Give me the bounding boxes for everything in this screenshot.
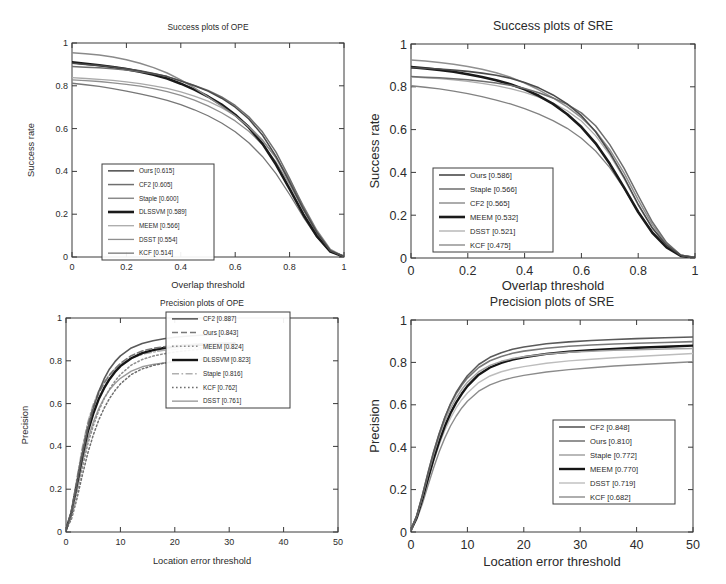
legend-label-ours: Ours [0.843] bbox=[203, 329, 238, 337]
legend-label-meem: MEEM [0.770] bbox=[590, 465, 638, 474]
legend-label-kcf: KCF [0.475] bbox=[470, 241, 511, 250]
y-tick-label: 0.8 bbox=[49, 356, 62, 366]
y-tick-label: 0.4 bbox=[390, 441, 407, 455]
y-tick-label: 1 bbox=[400, 38, 407, 52]
y-tick-label: 0.2 bbox=[49, 484, 62, 494]
y-tick-label: 0.8 bbox=[390, 356, 407, 370]
y-tick-label: 0.8 bbox=[55, 81, 68, 91]
legend-label-meem: MEEM [0.532] bbox=[470, 213, 518, 222]
x-tick-label: 30 bbox=[224, 537, 234, 547]
chart-legend: Ours [0.586]Staple [0.566]CF2 [0.565]MEE… bbox=[433, 168, 553, 252]
y-axis-label: Success rate bbox=[367, 113, 382, 188]
y-axis-label: Success rate bbox=[26, 123, 36, 177]
legend-label-staple: Staple [0.600] bbox=[139, 195, 179, 203]
chart-panel-precision-sre: Precision plots of SRE0102030405000.20.4… bbox=[363, 292, 726, 584]
y-tick-label: 0.6 bbox=[55, 124, 68, 134]
legend-label-ours: Ours [0.810] bbox=[590, 437, 632, 446]
legend-label-kcf: KCF [0.682] bbox=[590, 493, 631, 502]
legend-label-cf2: CF2 [0.848] bbox=[590, 423, 630, 432]
y-tick-label: 0.2 bbox=[390, 209, 407, 223]
chart-title: Precision plots of OPE bbox=[160, 298, 244, 308]
x-axis-label: Location error threshold bbox=[153, 556, 251, 566]
y-tick-label: 0 bbox=[400, 526, 407, 540]
legend-label-dsst: DSST [0.761] bbox=[203, 397, 241, 405]
legend-label-dsst: DSST [0.719] bbox=[590, 479, 635, 488]
chart-panel-success-sre: Success plots of SRE00.20.40.60.8100.20.… bbox=[363, 0, 726, 292]
legend-label-dlssvm: DLSSVM [0.589] bbox=[139, 208, 187, 216]
y-tick-label: 1 bbox=[63, 38, 68, 48]
x-tick-label: 10 bbox=[115, 537, 125, 547]
chart-title: Success plots of OPE bbox=[168, 22, 249, 32]
x-tick-label: 40 bbox=[279, 537, 289, 547]
y-tick-label: 0.6 bbox=[49, 399, 62, 409]
y-tick-label: 0.4 bbox=[49, 441, 62, 451]
legend-label-meem: MEEM [0.566] bbox=[139, 222, 180, 230]
y-tick-label: 0.2 bbox=[390, 483, 407, 497]
chart-panel-precision-ope: Precision plots of OPE0102030405000.20.4… bbox=[0, 292, 363, 584]
y-tick-label: 0.6 bbox=[390, 123, 407, 137]
legend-label-dsst: DSST [0.554] bbox=[139, 236, 177, 244]
legend-label-ours: Ours [0.615] bbox=[139, 167, 174, 175]
y-tick-label: 0.2 bbox=[55, 209, 68, 219]
legend-label-staple: Staple [0.772] bbox=[590, 451, 637, 460]
x-tick-label: 0.4 bbox=[175, 262, 188, 272]
legend-label-staple: Staple [0.566] bbox=[470, 185, 517, 194]
x-tick-label: 0.6 bbox=[229, 262, 242, 272]
x-axis-label: Location error threshold bbox=[483, 554, 620, 569]
x-axis-label: Overlap threshold bbox=[171, 280, 244, 290]
x-tick-label: 0 bbox=[408, 264, 415, 278]
legend-label-kcf: KCF [0.514] bbox=[139, 249, 173, 257]
y-axis-label: Precision bbox=[20, 406, 30, 444]
x-tick-label: 0.8 bbox=[630, 264, 647, 278]
legend-label-cf2: CF2 [0.605] bbox=[139, 181, 173, 189]
legend-label-meem: MEEM [0.824] bbox=[203, 343, 244, 351]
x-tick-label: 0.6 bbox=[573, 264, 590, 278]
y-axis-label: Precision bbox=[367, 399, 382, 452]
chart-panel-success-ope: Success plots of OPE00.20.40.60.8100.20.… bbox=[0, 0, 363, 292]
x-tick-label: 1 bbox=[341, 262, 346, 272]
figure-panel-grid: Success plots of OPE00.20.40.60.8100.20.… bbox=[0, 0, 726, 584]
x-tick-label: 0.2 bbox=[459, 264, 476, 278]
y-tick-label: 1 bbox=[400, 314, 407, 328]
legend-label-dlssvm: DLSSVM [0.823] bbox=[203, 356, 251, 364]
x-tick-label: 20 bbox=[170, 537, 180, 547]
legend-label-staple: Staple [0.816] bbox=[203, 370, 243, 378]
x-tick-label: 40 bbox=[630, 538, 644, 552]
x-tick-label: 0 bbox=[408, 538, 415, 552]
x-tick-label: 30 bbox=[573, 538, 587, 552]
x-tick-label: 20 bbox=[517, 538, 531, 552]
x-tick-label: 10 bbox=[460, 538, 474, 552]
legend-label-kcf: KCF [0.762] bbox=[203, 384, 237, 392]
chart-legend: Ours [0.615]CF2 [0.605]Staple [0.600]DLS… bbox=[102, 164, 214, 260]
y-tick-label: 0.6 bbox=[390, 398, 407, 412]
y-tick-label: 0.8 bbox=[390, 80, 407, 94]
legend-label-cf2: CF2 [0.565] bbox=[470, 199, 510, 208]
x-tick-label: 0 bbox=[69, 262, 74, 272]
x-tick-label: 1 bbox=[692, 264, 699, 278]
y-tick-label: 0 bbox=[63, 252, 68, 262]
x-tick-label: 50 bbox=[686, 538, 700, 552]
chart-title: Success plots of SRE bbox=[493, 19, 613, 33]
x-tick-label: 0.2 bbox=[120, 262, 133, 272]
y-tick-label: 0 bbox=[400, 252, 407, 266]
chart-title: Precision plots of SRE bbox=[490, 295, 614, 309]
y-tick-label: 0.4 bbox=[55, 166, 68, 176]
legend-label-cf2: CF2 [0.887] bbox=[203, 315, 237, 323]
x-tick-label: 0.4 bbox=[516, 264, 533, 278]
x-tick-label: 0.8 bbox=[283, 262, 296, 272]
chart-legend: CF2 [0.848]Ours [0.810]Staple [0.772]MEE… bbox=[553, 420, 675, 504]
x-axis-label: Overlap threshold bbox=[502, 278, 605, 292]
y-tick-label: 1 bbox=[57, 313, 62, 323]
legend-label-dsst: DSST [0.521] bbox=[470, 227, 515, 236]
legend-label-ours: Ours [0.586] bbox=[470, 171, 512, 180]
y-tick-label: 0.4 bbox=[390, 166, 407, 180]
chart-legend: CF2 [0.887]Ours [0.843]MEEM [0.824]DLSSV… bbox=[166, 312, 290, 408]
y-tick-label: 0 bbox=[57, 527, 62, 537]
x-tick-label: 50 bbox=[333, 537, 343, 547]
x-tick-label: 0 bbox=[63, 537, 68, 547]
